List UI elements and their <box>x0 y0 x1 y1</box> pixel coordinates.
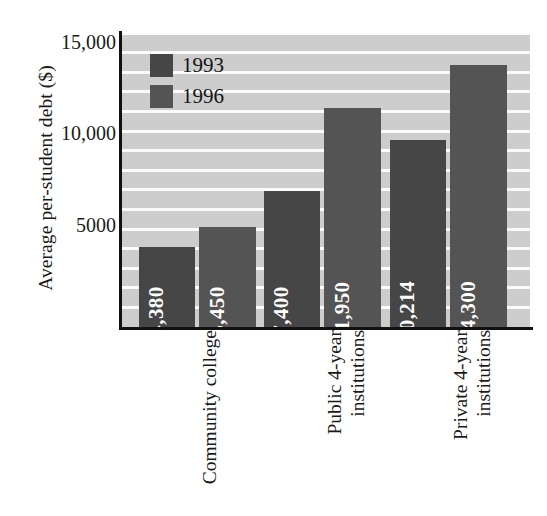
bar-chart: Average per-student debt ($) 15,000 10,0… <box>0 0 547 516</box>
chart-legend: 1993 1996 <box>150 50 224 112</box>
legend-item-1993: 1993 <box>150 50 224 81</box>
bar-public-4-year-1996[interactable]: 11,950 <box>324 108 381 327</box>
category-label-line: institutions <box>472 330 495 516</box>
legend-item-1996: 1996 <box>150 81 224 112</box>
category-label-line: Public 4-year <box>324 330 345 435</box>
bar-value-label: 4,380 <box>146 286 167 327</box>
bar-value-label: 10,214 <box>397 281 418 327</box>
y-tick-label: 5000 <box>30 215 116 235</box>
y-tick-label: 10,000 <box>30 123 116 143</box>
category-label-community-college: Community college <box>198 330 232 516</box>
legend-label: 1996 <box>182 86 224 107</box>
bar-private-4-year-1996[interactable]: 14,300 <box>450 65 507 327</box>
bar-private-4-year-1993[interactable]: 10,214 <box>390 140 446 327</box>
bar-value-label: 5,450 <box>207 286 228 327</box>
bar-community-college-1993[interactable]: 4,380 <box>139 247 195 327</box>
category-label-public-4-year: Public 4-yearinstitutions <box>323 330 357 516</box>
y-tick-label: 15,000 <box>30 32 116 52</box>
bar-value-label: 11,950 <box>332 282 353 328</box>
bar-public-4-year-1993[interactable]: 7,400 <box>264 191 320 327</box>
y-axis-tick-labels: 15,000 10,000 5000 <box>26 0 116 516</box>
bar-community-college-1996[interactable]: 5,450 <box>199 227 256 327</box>
bar-value-label: 14,300 <box>458 281 479 327</box>
gridline <box>122 33 530 35</box>
category-label-line: Community college <box>199 330 220 484</box>
category-label-line: Private 4-year <box>450 330 471 440</box>
legend-swatch-icon <box>150 85 173 108</box>
category-label-line: institutions <box>346 330 369 516</box>
legend-swatch-icon <box>150 54 173 77</box>
category-label-private-4-year: Private 4-yearinstitutions <box>449 330 483 516</box>
bar-value-label: 7,400 <box>271 286 292 327</box>
legend-label: 1993 <box>182 55 224 76</box>
x-axis-category-labels: Community collegePublic 4-yearinstitutio… <box>122 330 530 516</box>
